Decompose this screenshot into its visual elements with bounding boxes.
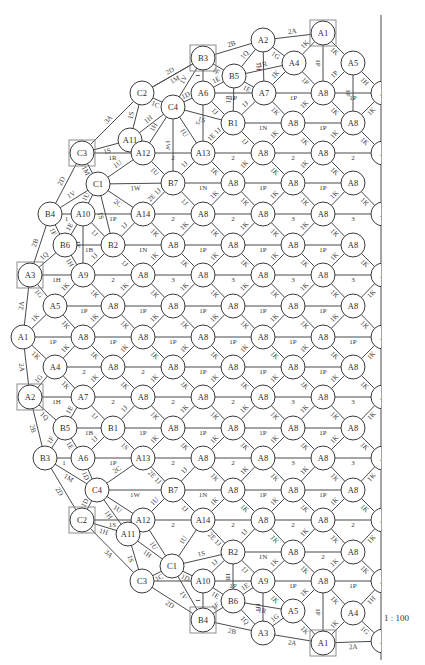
connection-label: 1K [329, 350, 341, 362]
connection-label: 1K [209, 189, 221, 201]
connection-label: 1K [239, 380, 251, 392]
connection-label: 1K [329, 46, 341, 58]
node-a8: A8 [281, 111, 305, 135]
connection-label: 1K [359, 196, 371, 208]
connection-label: 1P [199, 368, 207, 376]
node-label: A8 [228, 362, 238, 372]
node-label: A8 [198, 332, 208, 342]
connection-label: 1K [329, 166, 341, 178]
node-label: A4 [348, 608, 359, 618]
connection-label: 1U [178, 534, 189, 546]
connection-label: 1K [269, 373, 281, 385]
connection-label: 1K [270, 69, 282, 81]
node-label: A8 [348, 547, 358, 557]
connection-label: 1K [329, 410, 341, 422]
connection-label: 3 [291, 215, 295, 223]
connection-label: 1G [270, 50, 282, 62]
connection-label: 1K [239, 220, 251, 232]
connection-label: 1K [269, 350, 281, 362]
node-a8: A8 [311, 569, 335, 593]
node-label: A8 [198, 209, 208, 219]
connection-label: 2 [231, 215, 235, 223]
node-label: A3 [258, 628, 268, 638]
node-a1: A1 [11, 325, 35, 349]
node-label: B4 [45, 209, 56, 219]
connection-label: 1K [149, 251, 161, 263]
node-a: A [371, 385, 395, 409]
node-circle [371, 385, 395, 409]
connection-label: 1K [299, 159, 311, 171]
node-a: A [371, 141, 395, 165]
connection-label: 1K [299, 441, 311, 453]
node-a8: A8 [341, 416, 365, 440]
node-label: B1 [228, 118, 238, 128]
node-label: A8 [198, 270, 208, 280]
connection-label: 1H [52, 276, 61, 284]
connection-label: 1K [119, 343, 131, 355]
node-label: C3 [137, 576, 147, 586]
connection-label: 2 [82, 368, 86, 376]
node-label: A3 [25, 270, 35, 280]
connection-label: 1K [366, 472, 378, 484]
connection-label: 1K [329, 472, 341, 484]
connection-label: 1K [89, 350, 101, 362]
node-a8: A8 [221, 416, 245, 440]
node-label: A8 [318, 576, 328, 586]
connection-label: 1P [349, 94, 357, 102]
connection-label: 1K [269, 534, 281, 546]
connection-label: 3A [103, 548, 115, 560]
connection-label: 1K [30, 350, 42, 362]
connection-label: 1K [149, 288, 161, 300]
node-label: A8 [348, 423, 358, 433]
node-a8: A8 [191, 263, 215, 287]
node-circle [371, 81, 395, 105]
connection-label: 1K [329, 496, 341, 508]
connection-label: 1K [269, 594, 281, 606]
node-a: A [371, 263, 395, 287]
connection-label: 1K [329, 595, 341, 607]
connection-label: 1V [66, 189, 78, 200]
connection-label: 1P [319, 307, 327, 315]
node-a8: A8 [281, 540, 305, 564]
node-a8: A8 [251, 446, 275, 470]
connection-label: 2A [17, 301, 26, 310]
node-a8: A8 [311, 141, 335, 165]
node-label: C2 [137, 88, 147, 98]
node-c4: C4 [85, 478, 109, 502]
node-b3: B3 [33, 446, 57, 470]
node-label: C1 [167, 561, 177, 571]
node-a: A [371, 508, 395, 532]
node-label: A8 [78, 332, 88, 342]
connection-label: 1R [258, 606, 268, 615]
connection-label: 1K [89, 312, 101, 324]
connection-label: 1K [329, 129, 341, 141]
node-a5: A5 [43, 294, 67, 318]
connection-label: 1P [230, 94, 238, 102]
node-b2: B2 [101, 233, 125, 257]
connection-label: 1K [299, 380, 311, 392]
connection-label: 1U [149, 496, 161, 508]
node-b1: B1 [221, 111, 245, 135]
node-label: A8 [258, 148, 268, 158]
node-label: A8 [348, 301, 358, 311]
node-label: A8 [108, 301, 118, 311]
connection-label: 1K [209, 410, 221, 422]
connection-label: 1K [329, 189, 341, 201]
node-label: B1 [108, 423, 118, 433]
connection-label: 1K [299, 343, 311, 355]
connection-label: 3 [171, 276, 175, 284]
node-a8: A8 [101, 355, 125, 379]
connection-label: 1K [329, 227, 341, 239]
connection-label: 1K [30, 312, 42, 324]
connection-label: 1K [269, 251, 281, 263]
connection-label: 1K [366, 534, 378, 546]
connection-label: 1K [59, 380, 71, 392]
node-circle [371, 569, 395, 593]
node-a8: A8 [281, 355, 305, 379]
connection-label: 1P [199, 307, 207, 315]
connection-label: 2 [351, 154, 355, 162]
connection-label: 2 [111, 398, 115, 406]
connection-label: 1K [209, 496, 221, 508]
node-a4: A4 [341, 601, 365, 625]
connection-label: 1K [239, 196, 251, 208]
